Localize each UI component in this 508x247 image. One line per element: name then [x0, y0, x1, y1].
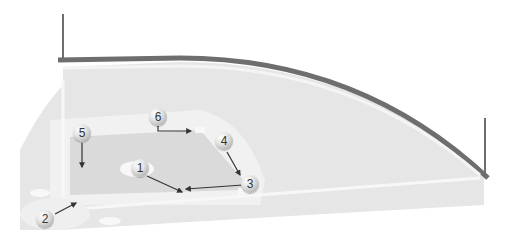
on-deck-circle-left — [30, 189, 50, 197]
player-marker-3: 3 — [241, 175, 259, 193]
player-marker-5: 5 — [73, 124, 91, 142]
on-deck-circle-right — [99, 217, 121, 225]
second-base — [195, 127, 205, 133]
player-marker-2: 2 — [36, 210, 54, 228]
player-marker-1: 1 — [131, 159, 149, 177]
player-marker-6: 6 — [149, 108, 167, 126]
baseball-field — [0, 0, 508, 247]
player-marker-4: 4 — [215, 132, 233, 150]
